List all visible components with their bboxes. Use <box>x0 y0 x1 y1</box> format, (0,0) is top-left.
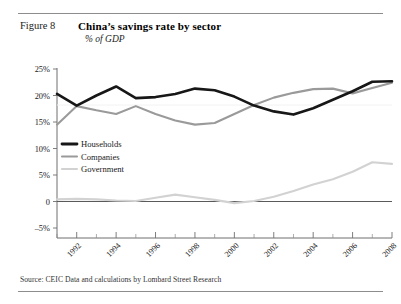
y-axis-tick-label: 10% <box>35 145 50 154</box>
series-line-households <box>57 81 392 114</box>
x-axis-tick-label: 1992 <box>65 241 83 259</box>
x-axis-tick-label: 2008 <box>380 241 398 259</box>
x-axis-tick-label: 2004 <box>302 241 320 259</box>
x-axis-tick-label: 1996 <box>144 241 162 259</box>
legend-label-government: Government <box>81 164 125 174</box>
source-note: Source: CEIC Data and calculations by Lo… <box>20 275 221 284</box>
page-title: China’s savings rate by sector <box>78 20 221 33</box>
legend-label-households: Households <box>81 139 122 149</box>
y-axis-tick-label: 5% <box>39 171 50 180</box>
figure-header: Figure 8 China’s savings rate by sector … <box>20 20 383 45</box>
figure-page: Figure 8 China’s savings rate by sector … <box>0 0 401 304</box>
y-axis-tick-label: –5% <box>34 224 50 233</box>
y-axis-tick-label: 15% <box>35 118 50 127</box>
x-axis-tick-label: 2006 <box>341 241 359 259</box>
x-axis-tick-label: 1994 <box>105 241 123 259</box>
y-axis-tick-label: 25% <box>35 65 50 74</box>
x-axis-tick-label: 2000 <box>223 241 241 259</box>
figure-label: Figure 8 <box>20 20 78 31</box>
top-rule <box>18 13 383 14</box>
figure-subtitle: % of GDP <box>78 33 221 45</box>
y-axis-tick-label: 0 <box>46 198 50 207</box>
y-axis-tick-label: 20% <box>35 92 50 101</box>
line-chart: 25%20%15%10%5%0–5%1992199419961998200020… <box>0 60 401 265</box>
bottom-rule <box>18 291 383 292</box>
series-line-companies <box>57 83 392 125</box>
x-axis-tick-label: 1998 <box>183 241 201 259</box>
chart-plot-area: 25%20%15%10%5%0–5%1992199419961998200020… <box>0 60 401 265</box>
legend-label-companies: Companies <box>81 152 120 162</box>
figure-titles: China’s savings rate by sector % of GDP <box>78 20 221 45</box>
x-axis-tick-label: 2002 <box>262 241 280 259</box>
